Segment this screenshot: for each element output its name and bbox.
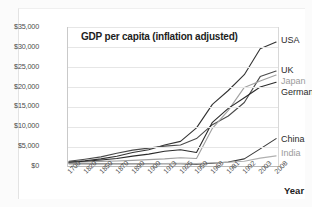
chart-card: GDP per capita (inflation adjusted) $35,…: [18, 8, 305, 199]
series-lines: [68, 27, 278, 167]
series-label-china: China: [281, 135, 305, 144]
chart-page: GDP per capita (inflation adjusted) $35,…: [0, 0, 312, 207]
series-line-germany: [69, 82, 276, 162]
gridline-25000: [68, 67, 278, 68]
y-tick-5000: $5,000: [18, 142, 39, 150]
y-tick-25000: $25,000: [14, 63, 39, 71]
y-tick-15000: $15,000: [14, 102, 39, 110]
series-label-india: India: [281, 149, 301, 158]
y-tick-10000: $10,000: [14, 122, 39, 130]
gridline-20000: [68, 87, 278, 88]
plot-area: [67, 27, 279, 167]
x-axis-title: Year: [284, 185, 304, 196]
series-label-germany: Germany: [281, 88, 312, 97]
y-tick-35000: $35,000: [14, 23, 39, 31]
gridline-10000: [68, 127, 278, 128]
gridline-35000: [68, 27, 278, 28]
gridline-15000: [68, 107, 278, 108]
gridline-30000: [68, 47, 278, 48]
series-label-japan: Japan: [281, 77, 306, 86]
series-line-japan: [69, 75, 276, 162]
y-tick-30000: $30,000: [14, 43, 39, 51]
y-tick-0: $0: [31, 162, 39, 170]
series-label-uk: UK: [281, 66, 294, 75]
series-label-usa: USA: [281, 36, 300, 45]
gridline-5000: [68, 147, 278, 148]
y-tick-20000: $20,000: [14, 83, 39, 91]
